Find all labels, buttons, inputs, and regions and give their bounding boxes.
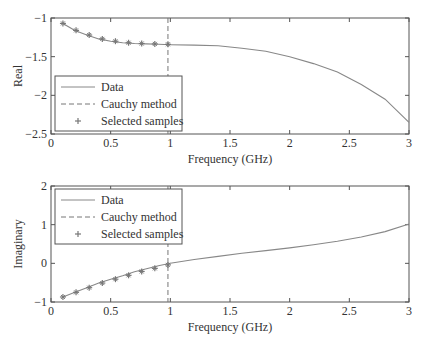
- sample-marker: [152, 41, 158, 47]
- sample-marker: [126, 40, 132, 46]
- chart-canvas: 00.511.522.53−1−1.5−2−2.5Frequency (GHz)…: [0, 0, 424, 349]
- x-axis-label: Frequency (GHz): [188, 152, 272, 166]
- x-tick-label: 2: [287, 304, 293, 318]
- x-tick-label: 2.5: [342, 136, 357, 150]
- x-tick-label: 1: [167, 136, 173, 150]
- sample-marker: [165, 41, 171, 47]
- y-tick-label: −2: [34, 88, 47, 102]
- legend: DataCauchy methodSelected samples: [55, 189, 184, 244]
- y-tick-label: 0: [41, 256, 47, 270]
- x-tick-label: 1: [167, 304, 173, 318]
- sample-marker: [86, 32, 92, 38]
- x-tick-label: 1.5: [223, 136, 238, 150]
- x-tick-label: 0.5: [103, 136, 118, 150]
- sample-marker: [139, 41, 145, 47]
- sample-marker: [73, 289, 79, 295]
- y-axis-label: Real: [11, 64, 25, 87]
- sample-marker: [60, 294, 66, 300]
- x-tick-label: 3: [406, 136, 412, 150]
- imaginary-plot: 00.511.522.53210−1Frequency (GHz)Imagina…: [11, 179, 412, 334]
- sample-marker: [112, 38, 118, 44]
- legend-label: Data: [101, 193, 124, 207]
- y-tick-label: −2.5: [25, 127, 47, 141]
- x-axis-label: Frequency (GHz): [188, 320, 272, 334]
- legend-label: Cauchy method: [101, 210, 177, 224]
- real-plot: 00.511.522.53−1−1.5−2−2.5Frequency (GHz)…: [11, 11, 412, 166]
- x-tick-label: 0: [48, 304, 54, 318]
- y-tick-label: −1: [34, 11, 47, 25]
- x-tick-label: 0.5: [103, 304, 118, 318]
- y-tick-label: 1: [41, 218, 47, 232]
- legend-label: Selected samples: [101, 227, 184, 241]
- sample-marker: [99, 36, 105, 42]
- y-tick-label: −1.5: [25, 50, 47, 64]
- y-axis-label: Imaginary: [11, 219, 25, 268]
- legend-label: Cauchy method: [101, 97, 177, 111]
- legend-label: Data: [101, 80, 124, 94]
- sample-marker: [73, 27, 79, 33]
- y-tick-label: 2: [41, 179, 47, 193]
- x-tick-label: 1.5: [223, 304, 238, 318]
- x-tick-label: 0: [48, 136, 54, 150]
- x-tick-label: 2: [287, 136, 293, 150]
- x-tick-label: 3: [406, 304, 412, 318]
- sample-marker: [165, 262, 171, 268]
- sample-marker: [60, 20, 66, 26]
- x-tick-label: 2.5: [342, 304, 357, 318]
- legend: DataCauchy methodSelected samples: [55, 76, 184, 131]
- y-tick-label: −1: [34, 295, 47, 309]
- legend-label: Selected samples: [101, 114, 184, 128]
